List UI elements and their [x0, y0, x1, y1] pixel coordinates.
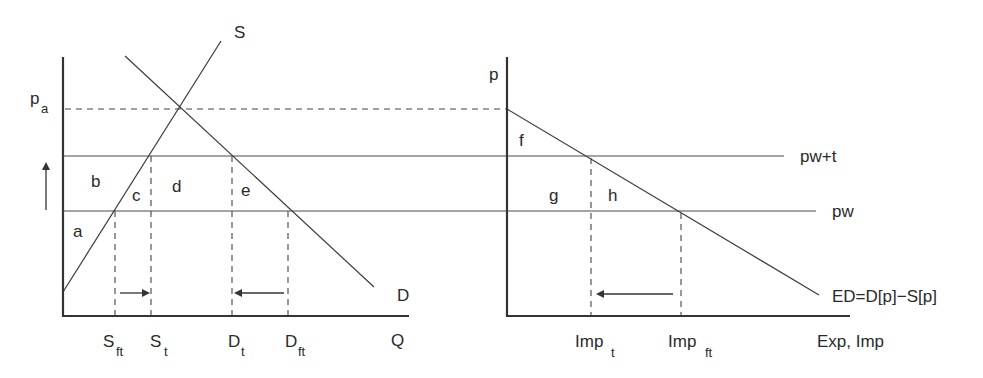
imp-ft-tick-label: Imp [668, 332, 696, 351]
demand-curve [125, 56, 374, 287]
imp-t-tick-sub: t [611, 345, 615, 360]
d-ft-tick-label: D [285, 332, 297, 351]
s-ft-tick-label: S [103, 332, 114, 351]
import-market-panel: p pw+t pw ED=D[p]−S[p] Exp, Imp f g h Im… [489, 57, 937, 360]
area-b-label: b [91, 172, 100, 191]
area-f-label: f [519, 131, 524, 150]
autarky-price-sub: a [41, 101, 49, 116]
excess-demand-label: ED=D[p]−S[p] [832, 287, 937, 306]
trade-axis-label: Exp, Imp [817, 332, 884, 351]
tariff-diagram: S D p a Q a b c d e S ft S t D t D ft [0, 0, 983, 378]
d-t-tick-sub: t [241, 344, 245, 359]
supply-curve [63, 41, 221, 292]
price-axis-label: p [489, 65, 498, 84]
domestic-market-panel: S D p a Q a b c d e S ft S t D t D ft [30, 23, 508, 359]
s-t-tick-label: S [150, 332, 161, 351]
autarky-price-label: p [30, 89, 39, 108]
s-ft-tick-sub: ft [116, 344, 124, 359]
imp-t-tick-label: Imp [575, 332, 603, 351]
tariff-price-label: pw+t [800, 147, 837, 166]
area-d-label: d [172, 177, 181, 196]
area-h-label: h [608, 186, 617, 205]
s-t-tick-sub: t [164, 344, 168, 359]
quantity-axis-label: Q [391, 331, 404, 350]
world-price-label: pw [832, 202, 854, 221]
area-e-label: e [241, 181, 250, 200]
area-g-label: g [549, 186, 558, 205]
d-t-tick-label: D [228, 332, 240, 351]
area-c-label: c [132, 186, 141, 205]
d-ft-tick-sub: ft [298, 344, 306, 359]
imp-ft-tick-sub: ft [705, 345, 713, 360]
supply-label: S [234, 23, 245, 42]
area-a-label: a [73, 222, 83, 241]
demand-label: D [397, 286, 409, 305]
